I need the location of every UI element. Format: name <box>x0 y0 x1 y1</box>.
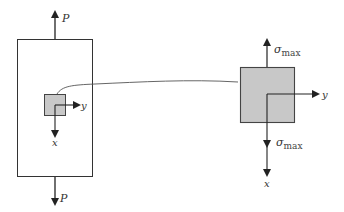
top-stress-arrow: σmax <box>267 40 301 67</box>
top-load-label: P <box>61 12 70 25</box>
element-x-axis-label: x <box>264 178 270 189</box>
bottom-load-label: P <box>59 192 68 205</box>
top-stress-subscript: max <box>282 48 301 58</box>
small-y-axis-label: y <box>80 100 87 111</box>
bottom-load-arrow: P <box>55 177 68 205</box>
svg-text:σmax: σmax <box>274 43 301 58</box>
bottom-stress-subscript: max <box>284 141 303 151</box>
bottom-stress-arrow: σmax <box>263 136 303 151</box>
small-x-axis-label: x <box>52 137 58 148</box>
axial-stress-diagram: P P y x σmax y x σmax <box>0 0 344 212</box>
svg-text:σmax: σmax <box>276 136 303 151</box>
top-load-arrow: P <box>55 12 70 39</box>
element-y-axis-label: y <box>321 89 328 100</box>
